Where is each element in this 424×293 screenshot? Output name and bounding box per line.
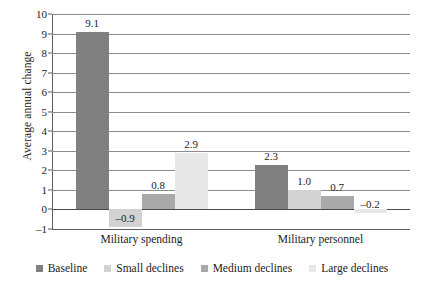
- legend-item[interactable]: Small declines: [104, 262, 183, 274]
- bar-value-label: 2.3: [264, 150, 278, 162]
- y-tick-label-0: 0: [42, 203, 48, 215]
- legend-label: Medium declines: [213, 262, 293, 274]
- bar-value-label: –0.9: [115, 212, 134, 224]
- bar: [76, 32, 109, 210]
- legend-item[interactable]: Medium declines: [201, 262, 293, 274]
- y-tick-label-4: 4: [42, 125, 48, 137]
- bar-value-label: 1.0: [297, 175, 311, 187]
- bar-value-label: 2.9: [184, 138, 198, 150]
- bars-layer: 9.1–0.90.82.92.31.00.7–0.2: [52, 14, 410, 229]
- bar-value-label: 0.8: [151, 179, 165, 191]
- y-tick-label-10: 10: [36, 8, 47, 20]
- y-axis-title: Average annual change: [21, 36, 33, 176]
- legend-swatch-icon: [309, 265, 316, 272]
- bar: [175, 153, 208, 210]
- chart-legend: BaselineSmall declinesMedium declinesLar…: [0, 262, 424, 274]
- y-tick-label-2: 2: [42, 164, 48, 176]
- y-tick-label-1: 1: [42, 184, 48, 196]
- legend-swatch-icon: [201, 265, 208, 272]
- y-tick-label-3: 3: [42, 145, 48, 157]
- bar-value-label: 0.7: [330, 181, 344, 193]
- legend-swatch-icon: [36, 265, 43, 272]
- legend-item[interactable]: Baseline: [36, 262, 88, 274]
- legend-label: Large declines: [321, 262, 388, 274]
- bar: [255, 165, 288, 210]
- bar: [321, 196, 354, 210]
- y-tick-label-9: 9: [42, 28, 48, 40]
- legend-item[interactable]: Large declines: [309, 262, 388, 274]
- y-tick-label-7: 7: [42, 67, 48, 79]
- bar: [142, 194, 175, 210]
- category-label: Military personnel: [278, 233, 363, 245]
- y-tick-label-8: 8: [42, 47, 48, 59]
- category-label: Military spending: [100, 233, 182, 245]
- legend-swatch-icon: [104, 265, 111, 272]
- plot-area: 109876543210–1 9.1–0.90.82.92.31.00.7–0.…: [52, 14, 410, 229]
- gridline--1: [52, 229, 410, 230]
- legend-label: Baseline: [48, 262, 88, 274]
- bar: [288, 190, 321, 210]
- y-tick-label--1: –1: [36, 223, 47, 235]
- y-tick-label-5: 5: [42, 106, 48, 118]
- legend-label: Small declines: [116, 262, 183, 274]
- bar-chart-figure: Average annual change 109876543210–1 9.1…: [0, 0, 424, 293]
- bar-value-label: –0.2: [360, 198, 379, 210]
- bar-value-label: 9.1: [85, 17, 99, 29]
- y-tick-label-6: 6: [42, 86, 48, 98]
